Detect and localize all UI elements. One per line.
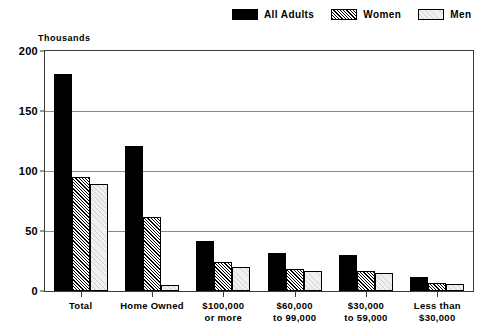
legend-item-men: Men	[418, 9, 471, 20]
x-axis-tick-label: Home Owned	[120, 300, 184, 312]
bar	[125, 146, 143, 291]
x-axis-tick-label-line: or more	[202, 312, 244, 324]
bar-group	[259, 51, 330, 291]
bar	[196, 241, 214, 291]
legend-swatch-men	[418, 9, 444, 20]
x-axis-tick-label-line: $30,000	[414, 312, 461, 324]
bar	[357, 271, 375, 291]
x-axis-tick-label: $100,000or more	[202, 300, 244, 324]
bar	[428, 283, 446, 291]
bar	[90, 184, 108, 291]
bar-group	[45, 51, 116, 291]
legend-label-all-adults: All Adults	[264, 9, 314, 20]
y-axis-units-label: Thousands	[38, 33, 91, 43]
x-axis-tick-mark	[366, 291, 367, 297]
bar	[143, 217, 161, 291]
bar-group	[330, 51, 401, 291]
bar	[72, 177, 90, 291]
legend-label-women: Women	[363, 9, 401, 20]
y-axis-tick-label: 100	[19, 165, 38, 177]
bar	[232, 267, 250, 291]
x-axis-tick-mark	[295, 291, 296, 297]
x-axis-tick-mark	[437, 291, 438, 297]
y-axis-tick-label: 200	[19, 45, 38, 57]
bar-group	[116, 51, 187, 291]
x-axis-tick-label-line: Total	[69, 300, 93, 312]
bar	[161, 285, 179, 291]
bar	[214, 262, 232, 291]
legend-swatch-all-adults	[232, 9, 258, 20]
legend-swatch-women	[331, 9, 357, 20]
chart-plot-area: 050100150200 TotalHome Owned$100,000or m…	[44, 50, 474, 292]
x-axis-tick-mark	[81, 291, 82, 297]
x-axis-tick-label: Less than$30,000	[414, 300, 461, 324]
bar-group	[188, 51, 259, 291]
y-axis-tick-label: 50	[25, 225, 38, 237]
x-axis-tick-label-line: Home Owned	[120, 300, 184, 312]
bar-groups	[45, 51, 473, 291]
bar-group	[402, 51, 473, 291]
bar	[54, 74, 72, 291]
x-axis-tick-label: $60,000to 99,000	[273, 300, 316, 324]
y-axis-tick-label: 0	[32, 285, 38, 297]
x-axis-tick-label-line: to 59,000	[344, 312, 387, 324]
y-axis-tick-label: 150	[19, 105, 38, 117]
x-axis-tick-mark	[223, 291, 224, 297]
legend-item-women: Women	[331, 9, 401, 20]
bar	[286, 269, 304, 291]
bar	[410, 277, 428, 291]
bar	[339, 255, 357, 291]
bar	[268, 253, 286, 291]
x-axis-tick-label-line: $100,000	[202, 300, 244, 312]
legend-item-all-adults: All Adults	[232, 9, 314, 20]
bar	[304, 271, 322, 291]
x-axis-tick-mark	[152, 291, 153, 297]
legend-label-men: Men	[450, 9, 471, 20]
bar	[446, 284, 464, 291]
bar	[375, 273, 393, 291]
x-axis-tick-label: Total	[69, 300, 93, 312]
x-axis-tick-label-line: $30,000	[344, 300, 387, 312]
x-axis-tick-label-line: $60,000	[273, 300, 316, 312]
x-axis-tick-label-line: Less than	[414, 300, 461, 312]
chart-legend: All Adults Women Men	[232, 9, 471, 20]
x-axis-tick-label-line: to 99,000	[273, 312, 316, 324]
x-axis-tick-label: $30,000to 59,000	[344, 300, 387, 324]
